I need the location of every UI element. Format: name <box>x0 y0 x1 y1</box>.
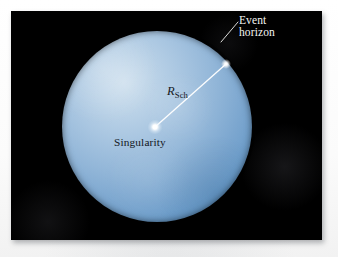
event-horizon-leader-line <box>221 22 238 42</box>
schwarzschild-radius-subscript: Sch <box>175 90 188 100</box>
figure-canvas: Event horizon RSch Singularity <box>0 0 338 257</box>
event-horizon-label: Event horizon <box>239 14 275 38</box>
schwarzschild-radius-label: RSch <box>167 85 188 100</box>
diagram-overlay <box>11 11 322 240</box>
event-horizon-label-line1: Event <box>239 14 275 26</box>
schwarzschild-radius-symbol: R <box>167 84 175 98</box>
singularity-point <box>153 125 158 130</box>
figure-panel: Event horizon RSch Singularity <box>11 11 322 240</box>
singularity-label: Singularity <box>114 137 166 149</box>
schwarzschild-radius-line <box>155 64 226 127</box>
event-horizon-label-line2: horizon <box>239 26 275 38</box>
radius-endpoint <box>225 63 228 66</box>
